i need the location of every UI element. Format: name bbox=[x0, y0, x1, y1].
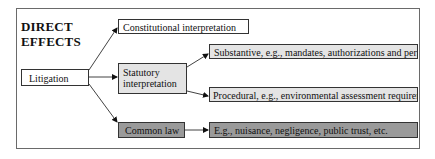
statutory-line-1: Statutory bbox=[123, 67, 182, 78]
node-procedural: Procedural, e.g., environmental assessme… bbox=[209, 87, 418, 102]
statutory-line-2: interpretation bbox=[123, 78, 182, 89]
node-common-law-examples: E.g., nuisance, negligence, public trust… bbox=[209, 122, 418, 138]
node-litigation: Litigation bbox=[21, 69, 89, 86]
node-substantive: Substantive, e.g., mandates, authorizati… bbox=[209, 44, 418, 59]
node-common-law: Common law bbox=[118, 122, 185, 138]
node-constitutional-interpretation: Constitutional interpretation bbox=[118, 19, 249, 34]
node-statutory-interpretation: Statutory interpretation bbox=[118, 63, 187, 94]
